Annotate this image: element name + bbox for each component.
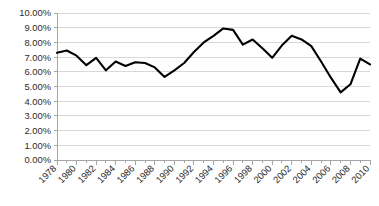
y-tick-label: 4.00% [24, 96, 51, 107]
y-tick-label: 2.00% [24, 125, 51, 136]
y-tick-label: 3.00% [24, 110, 51, 121]
chart-canvas: 0.00%1.00%2.00%3.00%4.00%5.00%6.00%7.00%… [0, 0, 379, 206]
y-tick-label: 6.00% [24, 66, 51, 77]
y-axis-tick-labels: 0.00%1.00%2.00%3.00%4.00%5.00%6.00%7.00%… [19, 7, 51, 165]
y-tick-label: 8.00% [24, 37, 51, 48]
y-tick-label: 9.00% [24, 22, 51, 33]
y-tick-label: 7.00% [24, 52, 51, 63]
line-chart: 0.00%1.00%2.00%3.00%4.00%5.00%6.00%7.00%… [0, 0, 379, 206]
y-tick-label: 10.00% [19, 7, 51, 18]
y-tick-label: 0.00% [24, 154, 51, 165]
y-tick-label: 5.00% [24, 81, 51, 92]
y-tick-label: 1.00% [24, 140, 51, 151]
